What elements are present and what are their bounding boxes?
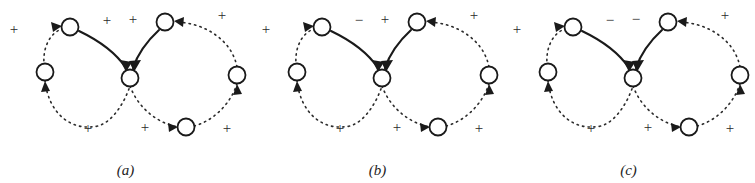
center-node <box>122 70 139 87</box>
top-left-node <box>62 19 79 36</box>
dotted-edges-b <box>296 22 489 127</box>
sign-bottom-left: + <box>84 120 92 136</box>
sign-right-solid: + <box>381 11 389 27</box>
panel-a: + + + + + + + (a) <box>0 0 251 183</box>
sign-bottom-mid: + <box>644 119 652 135</box>
dotted-edges-c <box>547 22 740 127</box>
edge-center-to-bottom <box>382 86 431 127</box>
arrowhead-into-bottom <box>420 123 430 132</box>
center-node <box>374 70 391 87</box>
sign-bottom-mid: + <box>141 119 149 135</box>
sign-left-solid: + <box>103 12 111 28</box>
arrowhead-into-topleft <box>51 22 62 32</box>
solid-edges-b <box>331 30 411 68</box>
top-right-node <box>660 14 677 31</box>
arrowhead-into-bottom <box>168 123 178 132</box>
sign-right-outer: + <box>218 7 226 23</box>
edge-center-to-bottom <box>633 86 682 127</box>
top-right-node <box>157 14 174 31</box>
far-left-node <box>289 64 306 81</box>
arrowhead-into-topright <box>677 17 687 27</box>
panel-c-caption: (c) <box>503 162 754 179</box>
sign-right-solid: + <box>129 11 137 27</box>
sign-right-outer: + <box>721 7 729 23</box>
center-node <box>625 70 642 87</box>
sign-left-outer: + <box>262 21 270 37</box>
panel-a-graph: + + + + + + + <box>0 0 251 160</box>
arrowhead-into-bottom <box>671 123 681 132</box>
bottom-node <box>681 119 698 136</box>
sign-right-outer: + <box>470 7 478 23</box>
panel-b-caption: (b) <box>252 162 503 179</box>
panel-c-graph: + − − + + + + <box>503 0 754 160</box>
far-right-node <box>229 67 246 84</box>
solid-edges-a <box>79 30 159 68</box>
arrowhead-into-topright <box>174 17 184 27</box>
top-left-node <box>565 19 582 36</box>
signed-digraph-figure: + + + + + + + (a) <box>0 0 755 183</box>
dotted-edges-a <box>44 22 237 127</box>
edge-topleft-to-center <box>582 31 629 68</box>
solid-edges-c <box>582 30 662 68</box>
panel-b-graph: + − + + + + + <box>252 0 503 160</box>
edge-center-to-bottom <box>130 86 179 127</box>
arrowhead-into-topleft <box>303 22 314 32</box>
sign-right-solid: − <box>632 11 640 27</box>
panel-a-caption: (a) <box>0 162 251 179</box>
nodes-b <box>289 14 498 136</box>
arrowhead-into-topleft <box>554 22 565 32</box>
arrowhead-into-farleft <box>293 81 302 92</box>
far-left-node <box>37 64 54 81</box>
sign-left-outer: + <box>10 21 18 37</box>
nodes-a <box>37 14 246 136</box>
far-right-node <box>481 67 498 84</box>
bottom-node <box>178 119 195 136</box>
panel-c: + − − + + + + (c) <box>503 0 754 183</box>
sign-left-solid: − <box>355 12 363 28</box>
sign-bottom-right: + <box>223 120 231 136</box>
sign-bottom-left: + <box>336 120 344 136</box>
edge-topleft-to-center <box>331 31 378 68</box>
sign-bottom-left: + <box>587 120 595 136</box>
top-right-node <box>409 14 426 31</box>
bottom-node <box>430 119 447 136</box>
sign-bottom-right: + <box>726 120 734 136</box>
nodes-c <box>540 14 749 136</box>
arrowhead-into-farleft <box>41 81 50 92</box>
far-right-node <box>732 67 749 84</box>
edge-topright-to-farright <box>174 22 237 67</box>
top-left-node <box>314 19 331 36</box>
sign-left-outer: + <box>513 21 521 37</box>
arrowhead-into-farleft <box>544 81 553 92</box>
edge-topleft-to-center <box>79 31 126 68</box>
sign-left-solid: − <box>606 12 614 28</box>
far-left-node <box>540 64 557 81</box>
edge-topright-to-farright <box>677 22 740 67</box>
panel-b: + − + + + + + (b) <box>252 0 503 183</box>
arrowhead-into-topright <box>426 17 436 27</box>
sign-bottom-right: + <box>475 120 483 136</box>
edge-topright-to-farright <box>426 22 489 67</box>
sign-bottom-mid: + <box>393 119 401 135</box>
